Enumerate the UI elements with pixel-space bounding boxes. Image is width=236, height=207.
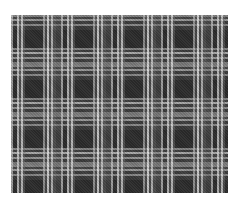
twill-texture [11, 15, 228, 193]
plaid-fabric-swatch [11, 15, 228, 193]
